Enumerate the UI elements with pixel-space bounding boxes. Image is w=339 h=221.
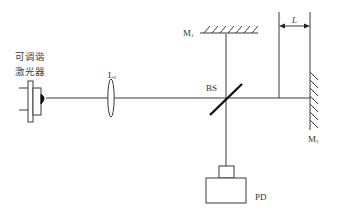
diagram-canvas (0, 0, 339, 221)
mirror2-icon (310, 12, 318, 130)
beam-splitter-label: BS (206, 84, 217, 93)
photodetector-label: PD (255, 193, 267, 202)
laser-label-line2: 激光器 (15, 67, 45, 77)
laser-icon (19, 81, 44, 122)
lens-icon (108, 79, 114, 117)
lens-label: L0 (108, 71, 116, 80)
mirror1-label: M1 (183, 29, 194, 38)
distance-label: L (292, 16, 297, 25)
mirror2-label: M2 (308, 135, 319, 144)
interferometer-diagram: 可调谐 激光器 L0 BS M1 M2 L PD (0, 0, 339, 221)
laser-label-line1: 可调谐 (15, 52, 45, 62)
photodetector-icon (206, 166, 246, 203)
mirror1-icon (200, 26, 258, 33)
